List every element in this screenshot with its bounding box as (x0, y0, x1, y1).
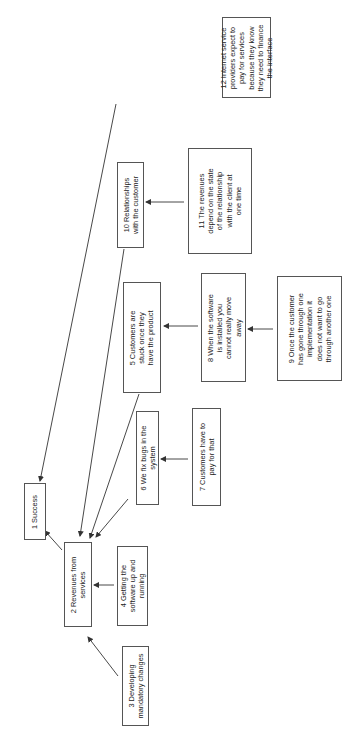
arrow-10-to-2 (80, 249, 124, 536)
node-label: 8 When the software is installed you can… (205, 275, 242, 380)
node-box-6: 6 We fix bugs in the system (136, 411, 159, 505)
node-label: 6 We fix bugs in the system (138, 413, 156, 503)
node-label: 2 Revenues from services (69, 544, 87, 625)
node-label: 12 Internet service providers expect to … (219, 19, 274, 96)
node-label: 11 The revenues depend on the state of t… (197, 150, 243, 252)
arrow-6-to-2 (96, 499, 128, 537)
node-box-2: 2 Revenues from services (64, 542, 92, 627)
node-label: 4 Getting the software up and running (119, 548, 147, 624)
node-label: 10 Relationships with the customer (121, 164, 139, 246)
node-label: 9 Once the customer has gone through one… (286, 278, 332, 379)
node-label: 7 Customers have to pay for that (197, 410, 215, 504)
node-box-8: 8 When the software is installed you can… (201, 273, 246, 382)
node-box-11: 11 The revenues depend on the state of t… (188, 148, 252, 254)
node-box-4: 4 Getting the software up and running (117, 546, 148, 626)
node-box-12: 12 Internet service providers expect to … (222, 17, 271, 98)
node-box-10: 10 Relationships with the customer (117, 162, 144, 248)
node-box-1: 1 Success (24, 483, 46, 540)
node-label: 5 Customers are stuck once they have the… (128, 284, 156, 391)
node-box-7: 7 Customers have to pay for that (192, 408, 221, 506)
causal-map-diagram: 1 Success2 Revenues from services3 Devel… (0, 0, 356, 745)
arrow-12-to-1 (40, 104, 116, 481)
node-box-9: 9 Once the customer has gone through one… (277, 276, 342, 381)
arrow-5-to-2 (90, 394, 139, 538)
node-label: 3 Developing mandatory changes (126, 648, 144, 724)
arrow-3-to-2 (88, 637, 118, 676)
node-box-5: 5 Customers are stuck once they have the… (123, 282, 161, 393)
arrow-2-to-1 (45, 531, 62, 550)
node-label: 1 Success (30, 485, 39, 538)
node-box-3: 3 Developing mandatory changes (122, 646, 149, 726)
